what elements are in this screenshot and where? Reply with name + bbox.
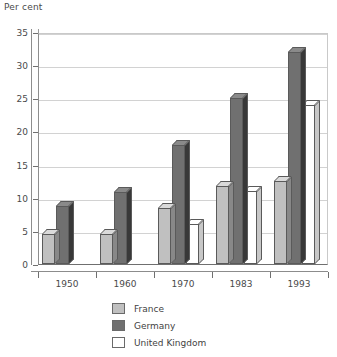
x-tick-mark	[96, 272, 97, 278]
legend-item-united-kingdom: United Kingdom	[112, 334, 282, 351]
bar-side-face	[287, 176, 292, 264]
bar-side-face	[257, 186, 262, 264]
y-tick-label: 0	[10, 260, 28, 270]
x-tick-mark	[154, 272, 155, 278]
gridline	[39, 100, 327, 101]
x-tick-label-1993: 1993	[288, 279, 311, 289]
bar-side-face	[185, 140, 190, 264]
x-tick-mark	[270, 272, 271, 278]
x-tick-mark	[328, 272, 329, 278]
bar-side-face	[127, 187, 132, 264]
plot-area	[38, 33, 328, 265]
chart-floor	[31, 265, 328, 272]
x-tick-mark	[38, 272, 39, 278]
bar-side-face	[229, 181, 234, 264]
legend-item-france: France	[112, 300, 282, 317]
y-tick-mark	[33, 265, 38, 266]
y-tick-mark	[33, 99, 38, 100]
y-tick-mark	[33, 66, 38, 67]
legend-swatch-icon	[112, 320, 125, 331]
legend-item-germany: Germany	[112, 317, 282, 334]
gridline	[39, 34, 327, 35]
y-tick-label: 5	[10, 227, 28, 237]
bar-france-1970	[158, 208, 171, 264]
bar-front-face	[100, 234, 113, 264]
x-tick-mark	[212, 272, 213, 278]
legend-label: United Kingdom	[134, 338, 206, 348]
gridline	[39, 67, 327, 68]
y-tick-label: 20	[10, 127, 28, 137]
bar-france-1950	[42, 234, 55, 264]
gridline	[39, 133, 327, 134]
bar-side-face	[243, 93, 248, 264]
bar-side-face	[55, 229, 60, 264]
bar-front-face	[274, 181, 287, 264]
x-tick-label-1970: 1970	[172, 279, 195, 289]
x-tick-label-1983: 1983	[230, 279, 253, 289]
legend-swatch-icon	[112, 337, 125, 348]
bar-side-face	[171, 203, 176, 264]
y-tick-mark	[33, 166, 38, 167]
y-tick-label: 30	[10, 61, 28, 71]
bar-side-face	[315, 100, 320, 264]
bar-chart: Per cent 05101520253035 1950196019701983…	[0, 0, 337, 357]
y-tick-label: 15	[10, 161, 28, 171]
y-tick-label: 35	[10, 28, 28, 38]
bar-front-face	[158, 208, 171, 264]
bar-france-1983	[216, 186, 229, 264]
y-tick-label: 10	[10, 194, 28, 204]
bar-france-1960	[100, 234, 113, 264]
bar-france-1993	[274, 181, 287, 264]
y-tick-label: 25	[10, 94, 28, 104]
bar-side-face	[199, 219, 204, 264]
bar-side-face	[301, 47, 306, 264]
x-tick-label-1960: 1960	[114, 279, 137, 289]
bar-side-face	[113, 229, 118, 264]
x-tick-label-1950: 1950	[56, 279, 79, 289]
legend-label: Germany	[134, 321, 175, 331]
legend-swatch-icon	[112, 303, 125, 314]
y-axis-title: Per cent	[4, 2, 43, 12]
bar-side-face	[69, 201, 74, 264]
y-tick-mark	[33, 33, 38, 34]
bar-front-face	[216, 186, 229, 264]
y-tick-mark	[33, 232, 38, 233]
y-tick-mark	[33, 199, 38, 200]
legend-label: France	[134, 304, 164, 314]
y-tick-mark	[33, 132, 38, 133]
bar-front-face	[42, 234, 55, 264]
chart-legend: FranceGermanyUnited Kingdom	[112, 300, 282, 351]
